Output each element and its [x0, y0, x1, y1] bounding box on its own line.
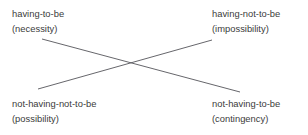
corner-label-top-right: having-not-to-be (impossibility) — [212, 6, 280, 36]
modal-square-diagram: having-to-be (necessity) having-not-to-b… — [0, 0, 308, 135]
corner-modal-possibility: (possibility) — [12, 111, 96, 126]
corner-label-bottom-right: not-having-to-be (contingency) — [212, 96, 280, 126]
corner-label-top-left: having-to-be (necessity) — [12, 6, 64, 36]
corner-term-having-to-be: having-to-be — [12, 6, 64, 21]
corner-modal-necessity: (necessity) — [12, 21, 64, 36]
corner-term-not-having-to-be: not-having-to-be — [212, 96, 280, 111]
corner-label-bottom-left: not-having-not-to-be (possibility) — [12, 96, 96, 126]
contradictory-line-necessity-contingency — [42, 39, 240, 92]
corner-modal-impossibility: (impossibility) — [212, 21, 280, 36]
corner-term-having-not-to-be: having-not-to-be — [212, 6, 280, 21]
contradictory-line-possibility-impossibility — [38, 40, 212, 89]
corner-term-not-having-not-to-be: not-having-not-to-be — [12, 96, 96, 111]
corner-modal-contingency: (contingency) — [212, 111, 280, 126]
